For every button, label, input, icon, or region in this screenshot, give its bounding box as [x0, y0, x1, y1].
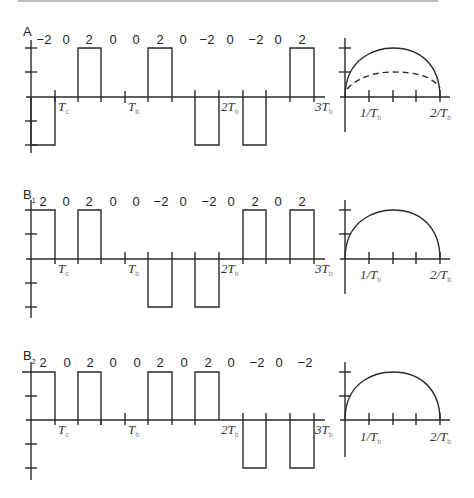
code-symbol: 0: [109, 356, 116, 369]
code-symbol: −2: [298, 356, 313, 369]
code-symbol: 0: [226, 33, 233, 46]
code-symbol: 0: [180, 356, 187, 369]
time-label-tb: Tb: [128, 262, 139, 277]
code-symbol: −2: [249, 33, 264, 46]
code-symbol: −2: [200, 33, 215, 46]
time-label-3tb: 3Tb: [315, 100, 333, 115]
code-symbol: 2: [298, 195, 305, 208]
code-symbol: 0: [62, 195, 69, 208]
code-symbol: 0: [275, 356, 282, 369]
panel-b2-waveform: [22, 362, 325, 480]
time-label-tc: Tc: [58, 423, 69, 438]
code-symbol: 2: [204, 356, 211, 369]
freq-label-2-over-tb: 2/Tb: [430, 106, 451, 121]
time-label-2tb: 2Tb: [221, 262, 239, 277]
code-symbol: −2: [250, 356, 265, 369]
panel-a-label: A: [23, 25, 32, 38]
freq-label-1-over-tb: 1/Tb: [360, 106, 381, 121]
code-symbol: 2: [85, 33, 92, 46]
panel-b2-label: B2: [23, 349, 36, 365]
panel-b1-label: B1: [23, 188, 36, 204]
code-symbol: 0: [179, 195, 186, 208]
code-symbol: 2: [39, 356, 46, 369]
code-symbol: 0: [132, 195, 139, 208]
code-symbol: 0: [133, 356, 140, 369]
panel-b1-waveform: [25, 200, 325, 318]
time-label-tc: Tc: [58, 262, 69, 277]
time-label-2tb: 2Tb: [221, 100, 239, 115]
code-symbol: −2: [202, 195, 217, 208]
code-symbol: 0: [109, 33, 116, 46]
time-label-tc: Tc: [58, 100, 69, 115]
code-symbol: 2: [251, 195, 258, 208]
freq-label-1-over-tb: 1/Tb: [360, 268, 381, 283]
code-symbol: 2: [156, 33, 163, 46]
time-label-tb: Tb: [128, 100, 139, 115]
code-symbol: 0: [179, 33, 186, 46]
code-symbol: 0: [274, 33, 281, 46]
code-symbol: 2: [298, 33, 305, 46]
code-symbol: 0: [227, 356, 234, 369]
code-symbol: 2: [156, 356, 163, 369]
code-symbol: 2: [86, 356, 93, 369]
freq-label-2-over-tb: 2/Tb: [430, 430, 451, 445]
time-label-tb: Tb: [128, 423, 139, 438]
time-label-3tb: 3Tb: [315, 262, 333, 277]
code-symbol: 0: [227, 195, 234, 208]
code-symbol: 0: [109, 195, 116, 208]
panel-a-waveform: [25, 40, 325, 153]
time-label-3tb: 3Tb: [315, 423, 333, 438]
code-symbol: −2: [154, 195, 169, 208]
code-symbol: 2: [85, 195, 92, 208]
code-symbol: −2: [37, 33, 52, 46]
freq-label-2-over-tb: 2/Tb: [430, 268, 451, 283]
code-symbol: 0: [274, 195, 281, 208]
time-label-2tb: 2Tb: [221, 423, 239, 438]
code-symbol: 0: [62, 33, 69, 46]
freq-label-1-over-tb: 1/Tb: [360, 430, 381, 445]
code-symbol: 2: [39, 195, 46, 208]
code-symbol: 0: [63, 356, 70, 369]
code-symbol: 0: [132, 33, 139, 46]
